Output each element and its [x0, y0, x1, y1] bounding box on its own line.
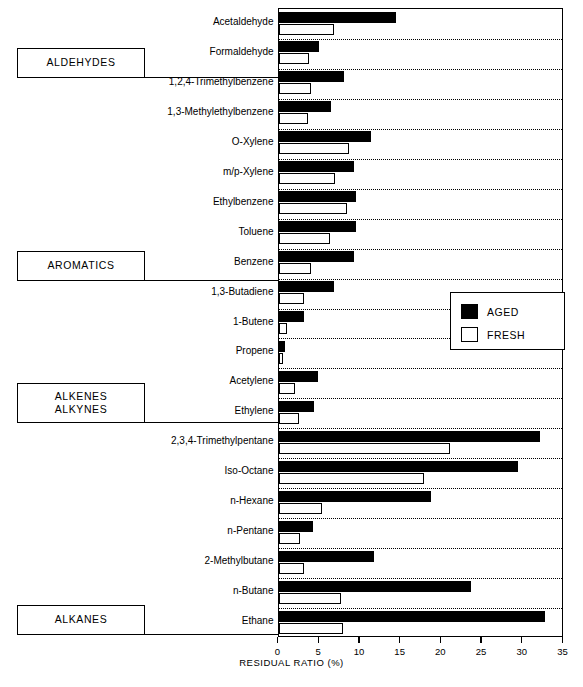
category-label: 1,2,4-Trimethylbenzene — [169, 77, 274, 87]
group-box-alkenes-alkynes: ALKENES ALKYNES — [17, 383, 145, 423]
bar-aged — [279, 101, 332, 112]
bar-fresh — [279, 53, 310, 64]
category-label: Ethane — [242, 616, 274, 626]
legend-item-fresh: FRESH — [461, 323, 554, 346]
bar-fresh — [279, 593, 342, 604]
bar-fresh — [279, 623, 343, 634]
bar-aged — [279, 551, 374, 562]
legend-swatch-fresh — [461, 327, 478, 342]
bar-aged — [279, 311, 304, 322]
category-label: 1,3-Butadiene — [211, 287, 273, 297]
x-axis-tick — [277, 637, 278, 643]
bar-fresh — [279, 533, 300, 544]
bar-aged — [279, 431, 540, 442]
category-label: Formaldehyde — [210, 47, 274, 57]
bar-aged — [279, 191, 356, 202]
bar-aged — [279, 281, 334, 292]
bar-fresh — [279, 233, 330, 244]
category-label: 1-Butene — [233, 317, 274, 327]
bar-aged — [279, 611, 545, 622]
category-label: 1,3-Methylethylbenzene — [167, 107, 273, 117]
category-label: n-Hexane — [230, 496, 273, 506]
row-separator — [279, 189, 562, 190]
row-separator — [279, 608, 562, 609]
bar-fresh — [279, 143, 350, 154]
bar-fresh — [279, 113, 308, 124]
row-separator — [279, 548, 562, 549]
category-label: Benzene — [234, 257, 273, 267]
row-separator — [279, 458, 562, 459]
x-axis-tick — [318, 637, 319, 643]
bar-aged — [279, 401, 314, 412]
category-label: Ethylene — [235, 406, 274, 416]
x-axis-tick — [358, 637, 359, 643]
row-separator — [279, 249, 562, 250]
group-box-alkanes: ALKANES — [17, 605, 145, 635]
group-box-aldehydes: ALDEHYDES — [17, 48, 145, 78]
x-axis-title: RESIDUAL RATIO (%) — [0, 657, 583, 668]
x-axis-tick — [480, 637, 481, 643]
residual-ratio-chart: ALDEHYDES AROMATICS ALKENES ALKYNES ALKA… — [0, 0, 583, 687]
row-separator — [279, 578, 562, 579]
category-label: Iso-Octane — [225, 466, 274, 476]
category-label: Ethylbenzene — [213, 197, 274, 207]
category-label: Acetylene — [230, 376, 274, 386]
category-label: Toluene — [238, 227, 273, 237]
bar-fresh — [279, 263, 312, 274]
x-axis-tick-label: 25 — [476, 646, 487, 657]
row-separator — [279, 428, 562, 429]
bar-fresh — [279, 173, 335, 184]
row-separator — [279, 398, 562, 399]
x-axis-tick-label: 20 — [435, 646, 446, 657]
x-axis-tick-label: 0 — [275, 646, 280, 657]
bar-aged — [279, 491, 431, 502]
bar-aged — [279, 161, 355, 172]
bar-fresh — [279, 353, 284, 364]
x-axis-tick-label: 10 — [354, 646, 365, 657]
category-label: m/p-Xylene — [223, 167, 274, 177]
x-axis-tick-label: 30 — [516, 646, 527, 657]
bar-fresh — [279, 563, 304, 574]
x-axis-tick — [521, 637, 522, 643]
legend-swatch-aged — [461, 304, 478, 319]
bar-aged — [279, 341, 286, 352]
bar-fresh — [279, 293, 304, 304]
group-label-alkanes: ALKANES — [55, 613, 108, 626]
bar-aged — [279, 12, 396, 23]
group-label-aldehydes: ALDEHYDES — [46, 56, 115, 69]
bar-aged — [279, 131, 372, 142]
category-label: 2,3,4-Trimethylpentane — [171, 436, 273, 446]
bar-aged — [279, 41, 320, 52]
row-separator — [279, 129, 562, 130]
bar-fresh — [279, 413, 299, 424]
group-box-aromatics: AROMATICS — [17, 251, 145, 281]
row-separator — [279, 219, 562, 220]
row-separator — [279, 518, 562, 519]
row-separator — [279, 279, 562, 280]
row-separator — [279, 159, 562, 160]
legend: AGED FRESH — [450, 292, 565, 350]
category-label: 2-Methylbutane — [205, 556, 274, 566]
bar-fresh — [279, 383, 295, 394]
row-separator — [279, 69, 562, 70]
row-separator — [279, 488, 562, 489]
legend-label-aged: AGED — [487, 306, 519, 318]
category-label: Acetaldehyde — [213, 17, 274, 27]
row-separator — [279, 368, 562, 369]
group-label-alkenes: ALKENES — [55, 390, 108, 403]
bar-fresh — [279, 203, 347, 214]
x-axis-tick — [399, 637, 400, 643]
category-label: O-Xylene — [232, 137, 274, 147]
group-label-alkynes: ALKYNES — [55, 403, 108, 416]
bar-fresh — [279, 443, 450, 454]
x-axis-tick-label: 35 — [557, 646, 568, 657]
row-separator — [279, 39, 562, 40]
bar-fresh — [279, 473, 425, 484]
x-axis-tick — [440, 637, 441, 643]
bar-aged — [279, 71, 345, 82]
bar-aged — [279, 521, 313, 532]
bar-aged — [279, 251, 355, 262]
category-label: Propene — [236, 346, 274, 356]
legend-label-fresh: FRESH — [487, 329, 525, 341]
x-axis-tick-label: 15 — [394, 646, 405, 657]
